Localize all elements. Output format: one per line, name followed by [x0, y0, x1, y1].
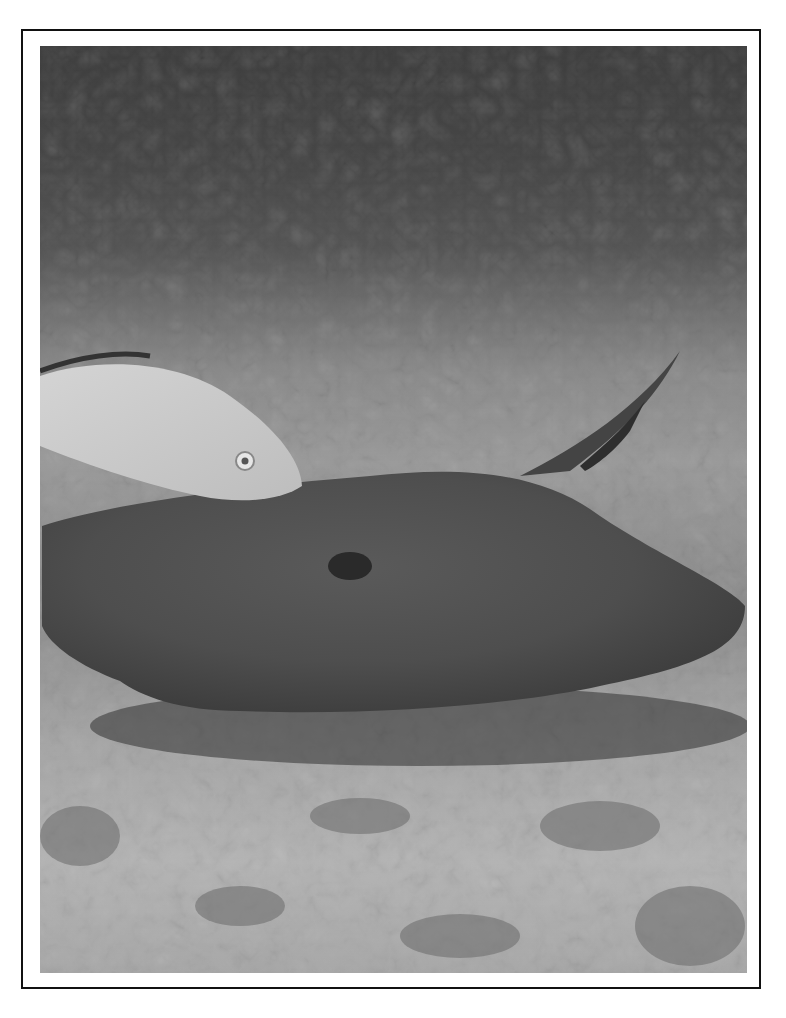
- scene: [40, 46, 747, 973]
- underwater-photo: [40, 46, 747, 973]
- stingray-eye: [328, 552, 372, 580]
- fish-pupil: [242, 458, 249, 465]
